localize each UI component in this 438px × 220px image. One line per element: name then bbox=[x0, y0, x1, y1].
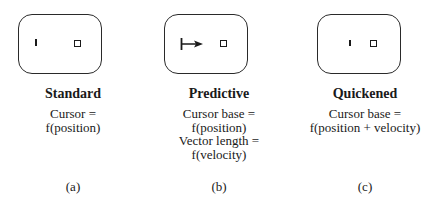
target-square-icon bbox=[370, 40, 377, 47]
description-line: f(position) bbox=[0, 121, 146, 135]
target-square-icon bbox=[74, 40, 81, 47]
cursor-tick-icon bbox=[35, 39, 37, 46]
panel-predictive: Predictive Cursor base = f(position) Vec… bbox=[146, 0, 292, 220]
panel-title: Quickened bbox=[292, 86, 438, 102]
display-box bbox=[164, 14, 248, 74]
description-line: Cursor = bbox=[0, 107, 146, 121]
display-box bbox=[18, 14, 102, 74]
display-box bbox=[317, 14, 401, 74]
description-line: f(position) bbox=[146, 121, 292, 135]
panel-description: Cursor base = f(position + velocity) bbox=[292, 107, 438, 134]
description-line: Cursor base = bbox=[292, 107, 438, 121]
panel-description: Cursor base = f(position) Vector length … bbox=[146, 107, 292, 161]
panel-label: (b) bbox=[146, 179, 292, 194]
panel-title: Predictive bbox=[146, 86, 292, 102]
target-square-icon bbox=[220, 40, 227, 47]
panel-label: (a) bbox=[0, 179, 146, 194]
panel-title: Standard bbox=[0, 86, 146, 102]
description-line: Cursor base = bbox=[146, 107, 292, 121]
cursor-tick-icon bbox=[349, 40, 351, 46]
panel-description: Cursor = f(position) bbox=[0, 107, 146, 134]
description-line: f(position + velocity) bbox=[292, 121, 438, 135]
panel-standard: Standard Cursor = f(position) (a) bbox=[0, 0, 146, 220]
panel-label: (c) bbox=[292, 179, 438, 194]
velocity-vector-arrow-icon bbox=[180, 37, 206, 51]
panel-quickened: Quickened Cursor base = f(position + vel… bbox=[292, 0, 438, 220]
description-line: f(velocity) bbox=[146, 148, 292, 162]
description-line: Vector length = bbox=[146, 134, 292, 148]
